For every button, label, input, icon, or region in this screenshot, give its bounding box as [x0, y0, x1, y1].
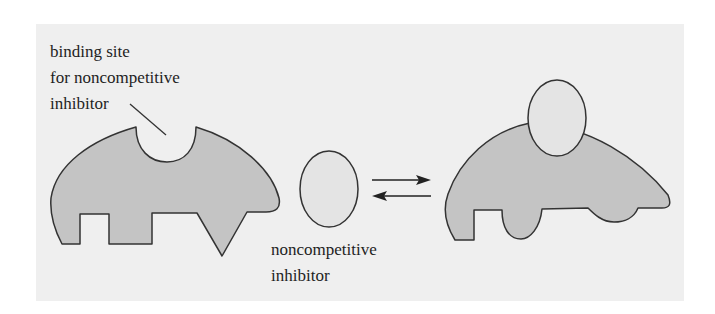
inhibitor-label-line2: inhibitor — [271, 263, 377, 289]
inhibitor-label-line1: noncompetitive — [271, 237, 377, 263]
binding-site-label-line2: for noncompetitive — [50, 65, 180, 91]
inhibitor-label: noncompetitive inhibitor — [271, 237, 377, 289]
equilibrium-arrows-icon — [372, 175, 431, 201]
binding-site-label-line3: inhibitor — [50, 91, 180, 117]
binding-site-label: binding site for noncompetitive inhibito… — [50, 39, 180, 117]
binding-site-label-line1: binding site — [50, 39, 180, 65]
noncompetitive-inhibitor-oval — [300, 151, 358, 227]
bound-inhibitor-oval — [528, 80, 586, 156]
enzyme-free-shape — [51, 127, 280, 256]
